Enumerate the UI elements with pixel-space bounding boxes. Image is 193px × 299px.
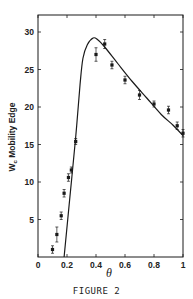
point-marker: [167, 108, 170, 111]
point-marker: [67, 176, 70, 179]
axis-tick-labels: 00.20.40.60.8151015202530: [25, 27, 186, 270]
data-point: [152, 101, 155, 107]
x-tick-label: 0.8: [148, 260, 160, 270]
data-point: [123, 76, 126, 84]
x-tick-label: 0: [36, 260, 41, 270]
data-point: [55, 227, 58, 242]
figure-chart: 00.20.40.60.8151015202530 θ Wc Mobility …: [0, 0, 193, 299]
y-tick-label: 15: [25, 140, 35, 150]
y-tick-label: 5: [29, 215, 34, 225]
plot-border: [38, 15, 183, 257]
y-tick-label: 30: [25, 27, 35, 37]
y-tick-label: 25: [25, 65, 35, 75]
point-marker: [103, 42, 106, 45]
axis-ticks: [38, 15, 183, 257]
data-point: [103, 40, 106, 49]
data-point: [63, 190, 66, 198]
theory-curve-line: [64, 38, 183, 257]
y-axis-label-rest: Mobility Edge: [7, 102, 17, 160]
x-tick-label: 0.2: [61, 260, 73, 270]
theory-curve: [64, 38, 183, 257]
data-point: [67, 174, 70, 182]
point-marker: [110, 63, 113, 66]
point-marker: [152, 102, 155, 105]
point-marker: [138, 93, 141, 96]
plot-frame: [38, 15, 183, 257]
data-point: [167, 106, 170, 114]
point-marker: [123, 78, 126, 81]
point-marker: [74, 140, 77, 143]
y-tick-label: 10: [25, 177, 35, 187]
data-point: [60, 212, 63, 220]
point-marker: [55, 233, 58, 236]
data-point: [51, 246, 54, 254]
point-marker: [51, 248, 54, 251]
x-axis-label: θ: [106, 266, 112, 280]
point-marker: [181, 132, 184, 135]
x-tick-label: 0.4: [90, 260, 102, 270]
point-marker: [94, 53, 97, 56]
y-axis-label: Wc Mobility Edge: [7, 102, 18, 171]
x-tick-label: 0.6: [119, 260, 131, 270]
point-marker: [60, 214, 63, 217]
point-marker: [176, 124, 179, 127]
data-point: [181, 130, 184, 138]
data-points: [51, 40, 185, 254]
figure-caption: FIGURE 2: [0, 286, 193, 296]
data-point: [110, 61, 113, 69]
point-marker: [63, 192, 66, 195]
x-tick-label: 1: [181, 260, 186, 270]
y-tick-label: 20: [25, 102, 35, 112]
data-point: [94, 48, 97, 62]
point-marker: [70, 168, 73, 171]
